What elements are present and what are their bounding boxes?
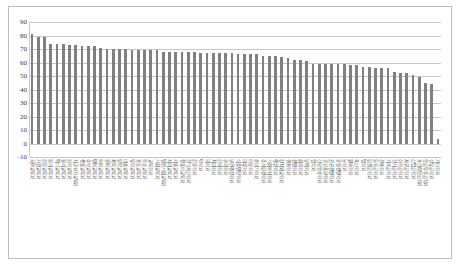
x-axis-category-label: 특수교육과 (141, 159, 146, 179)
x-axis-category-label: 법학과 (310, 159, 315, 171)
bar (412, 75, 415, 144)
x-axis-category-label: 체육교육과 (110, 159, 115, 179)
bar (112, 49, 115, 144)
bar-series (29, 22, 441, 157)
bar (206, 53, 209, 143)
bar (137, 50, 140, 143)
y-axis-tick-label: 50 (20, 73, 27, 80)
x-axis-category-label: 관광경영학과 (329, 159, 334, 182)
x-axis-category-label: 컴퓨터교육과 (179, 159, 184, 182)
bar (49, 44, 52, 144)
bar (337, 64, 340, 144)
bar (99, 48, 102, 144)
x-axis-category-label: 독어교육과 (98, 159, 103, 179)
bar (355, 65, 358, 143)
bar (68, 45, 71, 144)
x-axis-category-label: 환경공학과 (366, 159, 371, 179)
x-axis-category-label: 회계학과 (298, 159, 303, 175)
bar (193, 52, 196, 144)
bar (212, 53, 215, 143)
bar (293, 60, 296, 144)
x-axis-category-label: 재료공학과 (404, 159, 409, 179)
x-axis-category-label: 불어교육과 (104, 159, 109, 179)
x-axis-category-label: 주거환경학과 (260, 159, 265, 182)
bar (181, 52, 184, 144)
x-axis-category-label: 사회교육과 (154, 159, 159, 179)
x-axis-category-label: 전자계산학과 (185, 159, 190, 182)
x-axis-category-label: 음악교육과 (117, 159, 122, 179)
x-axis-category-label: 의류학과 (241, 159, 246, 175)
bar (231, 53, 234, 143)
y-axis-tick-label: 30 (20, 100, 27, 107)
x-axis-labels: 국어교육과가정교육과한문교육과윤리교육과역사교육과물리교육과화학교육과지구과학교… (29, 159, 441, 255)
x-axis-category-label: 가정교육과 (35, 159, 40, 179)
x-axis-category-label: 수의학과 (223, 159, 228, 175)
bar (318, 64, 321, 144)
bar (224, 53, 227, 143)
bar (399, 73, 402, 143)
bar (380, 68, 383, 144)
bar (162, 52, 165, 144)
x-axis-category-label: 일반사회교육과 (160, 159, 165, 186)
y-axis-tick-label: 70 (20, 46, 27, 53)
x-axis-category-label: 기계공학과 (385, 159, 390, 179)
bar (349, 65, 352, 143)
bar (156, 50, 159, 143)
x-axis-category-label: 기술교육과 (173, 159, 178, 179)
bar (168, 52, 171, 144)
y-axis-tick-label: 10 (20, 127, 27, 134)
bar (437, 139, 440, 143)
y-axis-tick-label: 80 (20, 32, 27, 39)
x-axis-category-label: 유아교육과 (129, 159, 134, 179)
x-axis-category-label: 섬유공학과 (429, 159, 434, 179)
bar (262, 56, 265, 144)
bar (131, 50, 134, 143)
bar (255, 54, 258, 143)
x-axis-category-label: 사회복지학과 (266, 159, 271, 182)
x-axis-category-label: 무역학과 (304, 159, 309, 175)
x-axis-category-label: 식품영양학과 (235, 159, 240, 182)
x-axis-category-label: 교육학과 (148, 159, 153, 175)
x-axis-category-label: 정치외교학과 (279, 159, 284, 182)
x-axis-category-label: 의학과 (204, 159, 209, 171)
bar (187, 52, 190, 144)
bar (237, 54, 240, 143)
bar (118, 49, 121, 144)
x-axis-category-label: 축산학과 (354, 159, 359, 175)
x-axis-category-label: 약학과 (198, 159, 203, 171)
x-axis-category-label: 소비자학과 (254, 159, 259, 179)
x-axis-category-label: 행정학과 (273, 159, 278, 175)
x-axis-category-label: 윤리교육과 (48, 159, 53, 179)
x-axis-category-label: 수학교육과 (85, 159, 90, 179)
x-axis-category-label: 원예학과 (347, 159, 352, 175)
bar (268, 56, 271, 144)
screenshot-root: -100102030405060708090 국어교육과가정교육과한문교육과윤리… (0, 0, 460, 273)
x-axis-category-label: 지리교육과 (166, 159, 171, 179)
y-axis-tick-label: 90 (20, 19, 27, 26)
x-axis-category-label: 영어교육과 (92, 159, 97, 179)
bar (31, 34, 34, 143)
x-axis-category-label: 기타학과 (435, 159, 440, 175)
x-axis-category-label: 경영학과 (291, 159, 296, 175)
y-axis-tick-label: 0 (24, 140, 28, 147)
gridline: -10 (30, 157, 441, 158)
chart-outer-frame: -100102030405060708090 국어교육과가정교육과한문교육과윤리… (8, 6, 452, 259)
x-axis-category-label: 조선해양공학과 (416, 159, 421, 186)
bar (74, 45, 77, 144)
bar (393, 72, 396, 144)
x-axis-category-label: 역사교육과 (54, 159, 59, 179)
bar (424, 83, 427, 144)
x-axis-category-label: 생물교육과 (79, 159, 84, 179)
bar (149, 50, 152, 143)
x-axis-category-label: 광고홍보학과 (323, 159, 328, 182)
x-axis-category-label: 임학과 (360, 159, 365, 171)
bar (387, 68, 390, 144)
x-axis-category-label: 한문교육과 (42, 159, 47, 179)
bar (243, 54, 246, 143)
x-axis-category-label: 화학공학과 (397, 159, 402, 179)
bar (368, 67, 371, 144)
bar (218, 53, 221, 143)
chart-area: -100102030405060708090 국어교육과가정교육과한문교육과윤리… (9, 7, 451, 258)
bar (299, 60, 302, 144)
bar (62, 44, 65, 144)
